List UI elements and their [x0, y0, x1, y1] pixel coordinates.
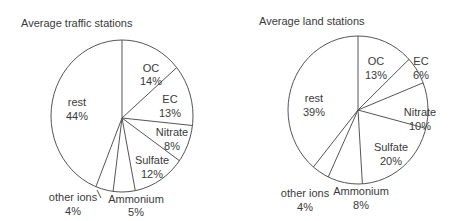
slice-label-value: 10%: [409, 120, 431, 132]
slice-label-name: rest: [305, 92, 323, 104]
slice-label-name: other ions: [281, 187, 330, 199]
slice-label-value: 14%: [140, 75, 162, 87]
slice-label-name: Nitrate: [156, 126, 188, 138]
slice-label-value: 13%: [365, 69, 387, 81]
slice-label-name: Ammonium: [108, 193, 164, 205]
slice-label-value: 4%: [297, 201, 313, 213]
slice-label-name: other ions: [49, 191, 98, 203]
pie-charts-canvas: OC14%EC13%Nitrate8%Sulfate12%Ammonium5%o…: [0, 0, 456, 221]
leader-line: [97, 190, 101, 198]
slice-label-value: 39%: [303, 106, 325, 118]
slice-label-name: OC: [143, 62, 160, 74]
slice-label-value: 8%: [353, 199, 369, 211]
traffic-stations-pie: OC14%EC13%Nitrate8%Sulfate12%Ammonium5%o…: [49, 40, 193, 218]
slice-label-value: 12%: [141, 168, 163, 180]
slice-label-value: 5%: [128, 206, 144, 218]
slice-label-name: rest: [68, 96, 86, 108]
slice-label-value: 8%: [164, 140, 180, 152]
slice-label-name: EC: [413, 55, 428, 67]
slice-label-value: 6%: [413, 69, 429, 81]
slice-label-name: EC: [162, 93, 177, 105]
slice-label-name: Sulfate: [374, 141, 408, 153]
land-stations-pie: OC13%EC6%Nitrate10%Sulfate20%Ammonium8%o…: [281, 36, 436, 213]
slice-label-value: 44%: [66, 110, 88, 122]
slice-label-value: 4%: [65, 205, 81, 217]
slice-label-name: Ammonium: [333, 185, 389, 197]
slice-label-name: OC: [368, 55, 385, 67]
slice-label-name: Nitrate: [404, 106, 436, 118]
slice-label-name: Sulfate: [135, 154, 169, 166]
slice-label-value: 20%: [380, 155, 402, 167]
slice-label-value: 13%: [159, 107, 181, 119]
